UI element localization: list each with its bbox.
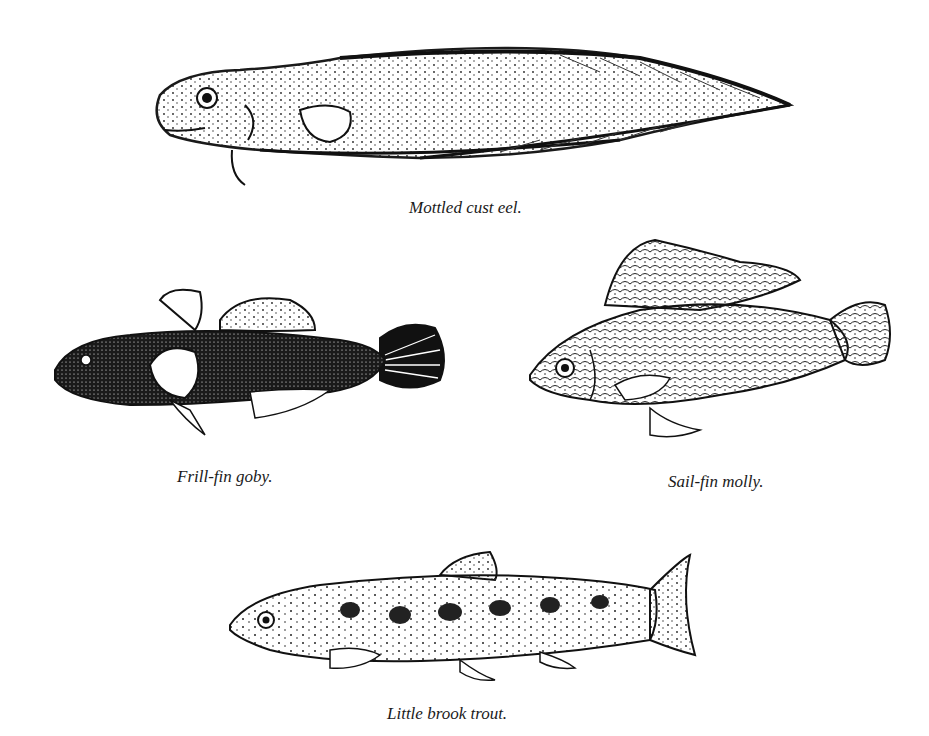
caption-sail-fin-molly: Sail-fin molly. bbox=[668, 472, 763, 492]
caption-little-brook-trout: Little brook trout. bbox=[387, 704, 507, 724]
caption-mottled-cust-eel: Mottled cust eel. bbox=[409, 198, 522, 218]
eel-figure bbox=[157, 48, 790, 185]
caption-frill-fin-goby: Frill-fin goby. bbox=[177, 467, 272, 487]
trout-figure bbox=[230, 552, 695, 680]
mottled-cust-eel-illustration bbox=[0, 0, 929, 736]
goby-figure bbox=[55, 290, 444, 435]
molly-figure bbox=[530, 240, 890, 437]
